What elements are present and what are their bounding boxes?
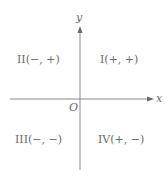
origin-label: O — [69, 102, 78, 113]
quadrant-ii-label: II(−, +) — [17, 54, 60, 65]
coordinate-plane — [0, 0, 168, 177]
quadrant-i-label: I(+, +) — [100, 54, 138, 65]
y-axis-label: y — [76, 12, 82, 23]
quadrant-iv-label: IV(+, −) — [98, 134, 144, 145]
x-axis-label: x — [156, 93, 162, 104]
x-axis-arrow-icon — [147, 97, 154, 102]
y-axis-arrow-icon — [78, 26, 83, 33]
quadrant-iii-label: III(−, −) — [15, 134, 62, 145]
